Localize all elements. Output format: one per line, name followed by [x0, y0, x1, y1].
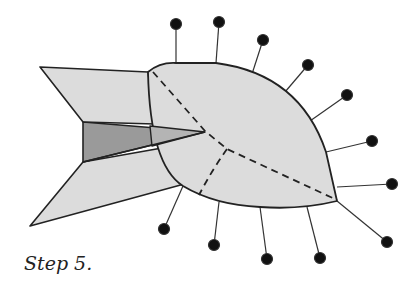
pin-head-icon [159, 224, 170, 235]
pin-head-icon [342, 90, 353, 101]
pin-head-icon [171, 19, 182, 30]
upper-wing-flap [40, 67, 155, 124]
pin-head-icon [258, 35, 269, 46]
pin-head-icon [387, 179, 398, 190]
pin-head-icon [214, 17, 225, 28]
pin-head-icon [303, 60, 314, 71]
pin-head-icon [367, 136, 378, 147]
pin-head-icon [262, 254, 273, 265]
pin-head-icon [382, 237, 393, 248]
pin-head-icon [209, 240, 220, 251]
step-caption: Step 5. [24, 252, 92, 274]
pin-head-icon [315, 253, 326, 264]
